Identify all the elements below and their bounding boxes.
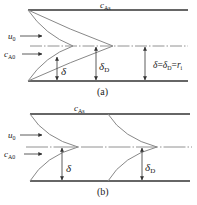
inlet-concentration-label-b: cA0	[4, 149, 15, 160]
velocity-label-a: u0	[8, 31, 16, 42]
thickness-equation-a: δ=δD=ri	[153, 60, 183, 71]
delta-label-b: δ	[66, 162, 72, 174]
concentration-boundary-curve-a	[28, 10, 113, 46]
velocity-label-b: u0	[8, 130, 16, 141]
velocity-boundary-curve-a-lower	[28, 46, 73, 81]
concentration-boundary-curve-b	[108, 114, 157, 147]
deltaD-label-b: δD	[145, 161, 155, 175]
boundary-layer-diagram: cAs u0 cA0 δ δD δ=δD=ri (a) cAs u0 cA0 δ	[0, 0, 197, 205]
panel-b: cAs u0 cA0 δ δD (b)	[4, 103, 192, 198]
wall-concentration-label-b: cAs	[74, 103, 85, 114]
inlet-concentration-label-a: cA0	[4, 49, 15, 60]
wall-concentration-label-a: cAs	[100, 0, 111, 11]
caption-a: (a)	[97, 86, 108, 98]
deltaD-label-a: δD	[99, 60, 109, 74]
velocity-boundary-curve-a	[28, 10, 73, 46]
caption-b: (b)	[97, 186, 109, 198]
velocity-boundary-curve-b	[30, 114, 78, 147]
delta-label-a: δ	[61, 65, 67, 77]
panel-a: cAs u0 cA0 δ δD δ=δD=ri (a)	[4, 0, 188, 98]
